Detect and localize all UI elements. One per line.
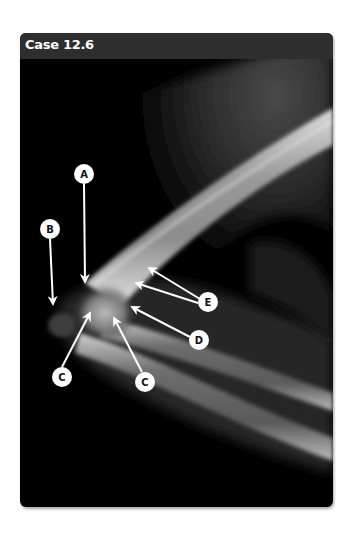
label-c1-text: C	[58, 372, 65, 383]
arrow-b	[50, 239, 53, 304]
elbow-joint	[73, 285, 137, 341]
elbow-radiograph: A B C C D E	[20, 33, 333, 507]
label-b: B	[40, 219, 60, 239]
label-a-text: A	[80, 169, 88, 180]
label-a: A	[74, 164, 94, 184]
arrow-a	[84, 184, 85, 282]
olecranon	[48, 313, 76, 337]
panel-header: Case 12.6	[20, 33, 333, 59]
label-c1: C	[52, 367, 72, 387]
label-e-text: E	[205, 297, 212, 308]
label-c2-text: C	[141, 377, 148, 388]
label-c2: C	[135, 372, 155, 392]
label-e: E	[198, 292, 218, 312]
case-figure-panel: Case 12.6	[20, 33, 333, 507]
label-d-text: D	[195, 335, 203, 346]
label-d: D	[189, 330, 209, 350]
label-b-text: B	[46, 224, 54, 235]
case-title: Case 12.6	[25, 37, 94, 52]
